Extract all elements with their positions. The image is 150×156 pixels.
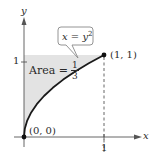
endpoint-label: (1, 1) — [110, 50, 137, 60]
area-label: Area = 1 3 — [29, 60, 79, 81]
y-tick-label: 1 — [13, 56, 19, 66]
x-axis-arrow-icon — [134, 135, 142, 140]
area-fraction: 1 3 — [71, 60, 79, 81]
endpoint-point — [102, 53, 107, 58]
area-fraction-denominator: 3 — [72, 71, 78, 81]
x-axis-label: x — [143, 131, 149, 141]
origin-label: (0, 0) — [29, 126, 56, 136]
callout-exponent: 2 — [88, 30, 92, 38]
callout-eq: = — [68, 31, 83, 42]
area-label-text: Area = — [29, 65, 68, 76]
y-axis-label: y — [21, 6, 27, 16]
figure: y x 1 1 (0, 0) (1, 1) Area = 1 3 x = y2 — [0, 0, 150, 156]
y-axis-arrow-icon — [22, 17, 27, 25]
area-fraction-numerator: 1 — [71, 60, 79, 71]
origin-point — [22, 135, 27, 140]
x-tick-label: 1 — [101, 143, 107, 153]
callout-equation: x = y2 — [62, 31, 93, 42]
